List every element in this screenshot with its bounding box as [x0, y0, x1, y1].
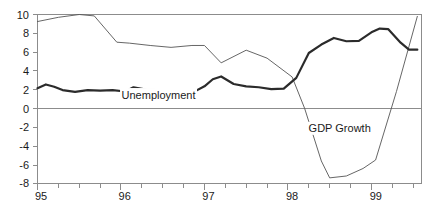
- plot-frame: [37, 14, 422, 184]
- x-tick-label-96: 96: [119, 190, 131, 202]
- series-line-unemployment: [38, 29, 418, 93]
- chart-canvas: 10 8 6 4 2 0 -2 -4 -6 -8 95 96 97 98 99: [0, 0, 437, 215]
- annotation-unemployment-label: Unemployment: [122, 89, 196, 101]
- y-tick-label-6: 6: [23, 46, 29, 58]
- y-tick-label-neg2: -2: [19, 121, 29, 133]
- x-tick-label-99: 99: [370, 190, 382, 202]
- y-axis-ticks: 10 8 6 4 2 0 -2 -4 -6 -8: [17, 9, 37, 190]
- x-axis-minor-ticks: [38, 184, 414, 190]
- y-tick-label-neg8: -8: [19, 177, 29, 189]
- annotation-gdp-growth: GDP Growth: [307, 122, 372, 135]
- y-tick-label-4: 4: [23, 65, 29, 77]
- y-tick-label-0: 0: [23, 103, 29, 115]
- x-tick-label-98: 98: [286, 190, 298, 202]
- y-tick-label-neg6: -6: [19, 159, 29, 171]
- annotation-gdp-growth-label: GDP Growth: [309, 122, 371, 134]
- y-tick-label-8: 8: [23, 27, 29, 39]
- y-tick-label-2: 2: [23, 84, 29, 96]
- x-tick-label-95: 95: [35, 190, 47, 202]
- y-tick-label-neg4: -4: [19, 140, 29, 152]
- y-tick-label-10: 10: [17, 9, 29, 21]
- x-axis-labels: 95 96 97 98 99: [35, 190, 382, 202]
- annotation-unemployment: Unemployment: [120, 88, 197, 101]
- economic-indicators-chart: 10 8 6 4 2 0 -2 -4 -6 -8 95 96 97 98 99: [0, 0, 437, 215]
- x-tick-label-97: 97: [202, 190, 214, 202]
